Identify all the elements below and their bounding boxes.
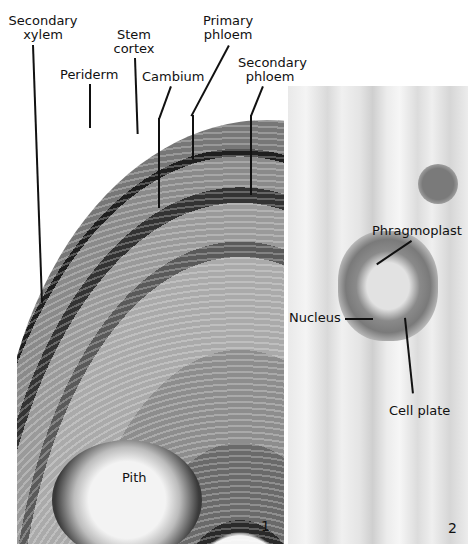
- label-secondary-phloem: Secondary phloem: [238, 56, 302, 84]
- leader-line-secondary-phloem-2: [250, 115, 252, 195]
- dividing-cell-image: [338, 231, 438, 341]
- label-stem-cortex: Stem cortex: [112, 28, 156, 56]
- label-cambium: Cambium: [142, 70, 204, 84]
- label-periderm: Periderm: [60, 68, 118, 82]
- leader-line-primary-phloem-2: [192, 115, 194, 159]
- leader-line-secondary-phloem-1: [250, 86, 263, 116]
- leader-line-periderm: [89, 84, 91, 128]
- label-primary-phloem: Primary phloem: [200, 14, 256, 42]
- label-secondary-xylem: Secondary xylem: [8, 14, 78, 42]
- label-cell-plate: Cell plate: [389, 404, 450, 418]
- label-pith: Pith: [122, 470, 147, 485]
- figure: Pith 1 2 Secondary xylem Periderm Stem c…: [0, 0, 476, 554]
- label-nucleus: Nucleus: [289, 311, 341, 325]
- panel-number-1: 1: [261, 518, 270, 534]
- leader-line-nucleus: [345, 318, 373, 320]
- label-phragmoplast: Phragmoplast: [372, 224, 462, 238]
- panel-1-stem-section: Pith 1: [17, 120, 284, 544]
- leader-line-cambium-2: [158, 118, 160, 208]
- leader-line-cambium-1: [158, 86, 171, 118]
- nucleus-blob-image: [418, 164, 458, 204]
- panel-number-2: 2: [448, 520, 457, 536]
